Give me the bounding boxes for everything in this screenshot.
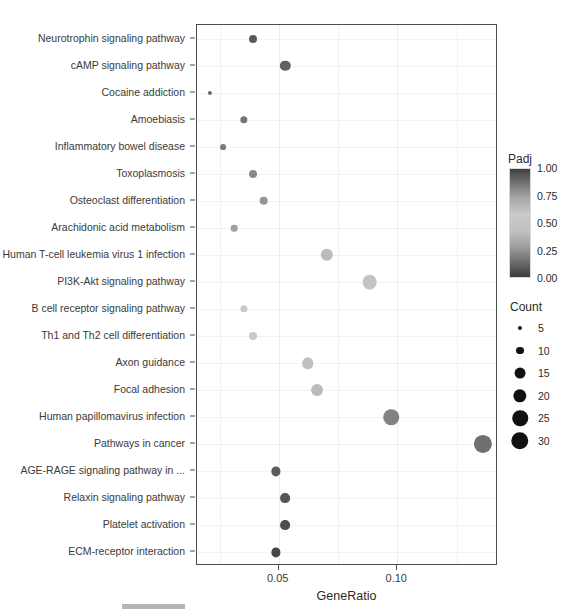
y-axis-tick-label: Human papillomavirus infection [39, 411, 185, 422]
grid-line-horizontal [197, 93, 496, 94]
grid-line-horizontal [197, 282, 496, 283]
padj-colorbar [509, 168, 531, 278]
data-point [260, 197, 269, 206]
x-axis-tick-mark [278, 565, 279, 570]
grid-line-horizontal [197, 390, 496, 391]
y-axis-tick-mark [190, 551, 195, 552]
data-point [208, 91, 212, 95]
y-axis-tick-label: Inflammatory bowel disease [55, 140, 185, 151]
y-axis-tick-label: Cocaine addiction [102, 86, 185, 97]
count-legend-tick-label: 25 [538, 412, 550, 424]
count-legend-marker [515, 368, 526, 379]
grid-line-horizontal [197, 228, 496, 229]
y-axis-tick-label: Axon guidance [116, 357, 185, 368]
data-point [231, 225, 238, 232]
count-legend-tick-label: 30 [538, 435, 550, 447]
y-axis-tick-label: Platelet activation [103, 519, 185, 530]
grid-line-horizontal [197, 525, 496, 526]
count-legend-marker [516, 347, 524, 355]
y-axis-tick-mark [190, 280, 195, 281]
data-point [249, 170, 257, 178]
grid-line-vertical [279, 25, 280, 564]
y-axis-tick-mark [190, 416, 195, 417]
grid-line-horizontal [197, 552, 496, 553]
y-axis-tick-mark [190, 199, 195, 200]
y-axis-tick-label: Focal adhesion [114, 384, 185, 395]
data-point [240, 305, 247, 312]
x-axis-tick-label: 0.05 [267, 572, 288, 584]
y-axis-tick-label: ECM-receptor interaction [68, 546, 185, 557]
data-point [280, 521, 290, 531]
y-axis-tick-mark [190, 470, 195, 471]
count-legend-tick-label: 10 [538, 345, 550, 357]
padj-legend-tick-label: 0.50 [537, 217, 557, 229]
padj-legend-title: Padj [508, 152, 532, 166]
grid-line-horizontal [197, 444, 496, 445]
y-axis-tick-label: PI3K-Akt signaling pathway [57, 275, 185, 286]
grid-line-horizontal [197, 201, 496, 202]
data-point [384, 409, 400, 425]
grid-line-horizontal [197, 255, 496, 256]
x-axis-tick-label: 0.10 [386, 572, 407, 584]
y-axis-tick-mark [190, 118, 195, 119]
grid-line-horizontal [197, 336, 496, 337]
count-legend-title: Count [510, 300, 542, 314]
count-legend-tick-label: 5 [538, 322, 544, 334]
y-axis-tick-mark [190, 524, 195, 525]
data-point [320, 249, 332, 261]
y-axis-tick-label: Amoebiasis [131, 113, 185, 124]
dot-plot-figure: Neurotrophin signaling pathwaycAMP signa… [0, 0, 574, 615]
y-axis-tick-label: Neurotrophin signaling pathway [38, 32, 185, 43]
plot-panel [196, 24, 497, 565]
grid-line-horizontal [197, 39, 496, 40]
y-axis-tick-mark [190, 91, 195, 92]
count-legend-tick-label: 15 [538, 367, 550, 379]
y-axis-tick-mark [190, 362, 195, 363]
count-legend-marker [512, 410, 528, 426]
data-point [362, 275, 377, 290]
count-legend-marker [511, 432, 528, 449]
count-legend-tick-label: 20 [538, 390, 550, 402]
y-axis-tick-label: Toxoplasmosis [116, 167, 185, 178]
padj-legend-tick-label: 0.25 [537, 245, 557, 257]
grid-line-vertical [457, 25, 458, 564]
grid-line-vertical [220, 25, 221, 564]
y-axis-label-group: Neurotrophin signaling pathwaycAMP signa… [0, 24, 185, 565]
y-axis-tick-label: cAMP signaling pathway [71, 59, 185, 70]
y-axis-tick-mark [190, 226, 195, 227]
grid-line-horizontal [197, 471, 496, 472]
footer-artifact-bar [122, 604, 185, 609]
padj-legend-tick-label: 0.00 [537, 272, 557, 284]
grid-line-vertical [338, 25, 339, 564]
grid-line-horizontal [197, 363, 496, 364]
data-point [249, 332, 257, 340]
y-axis-tick-label: Human T-cell leukemia virus 1 infection [3, 248, 185, 259]
count-legend-marker [513, 389, 526, 402]
data-point [220, 144, 226, 150]
data-point [280, 60, 290, 70]
y-axis-tick-mark [190, 253, 195, 254]
y-axis-tick-mark [190, 308, 195, 309]
x-axis-title: GeneRatio [196, 589, 497, 603]
grid-line-horizontal [197, 498, 496, 499]
data-point [249, 35, 257, 43]
grid-line-horizontal [197, 174, 496, 175]
y-axis-tick-label: Pathways in cancer [94, 438, 185, 449]
count-legend-marker [518, 326, 522, 330]
y-axis-tick-mark [190, 64, 195, 65]
y-axis-tick-mark [190, 389, 195, 390]
data-point [302, 357, 313, 368]
y-axis-tick-mark [190, 335, 195, 336]
data-point [240, 116, 247, 123]
y-axis-tick-mark [190, 145, 195, 146]
y-axis-tick-mark [190, 443, 195, 444]
y-axis-tick-label: Osteoclast differentiation [70, 194, 185, 205]
y-axis-tick-label: B cell receptor signaling pathway [31, 303, 185, 314]
padj-legend-tick-label: 0.75 [537, 190, 557, 202]
y-axis-tick-label: Relaxin signaling pathway [64, 492, 185, 503]
y-axis-tick-label: Th1 and Th2 cell differentiation [41, 330, 185, 341]
y-axis-tick-mark [190, 37, 195, 38]
y-axis-tick-mark [190, 172, 195, 173]
grid-line-horizontal [197, 147, 496, 148]
padj-legend-tick-label: 1.00 [537, 162, 557, 174]
